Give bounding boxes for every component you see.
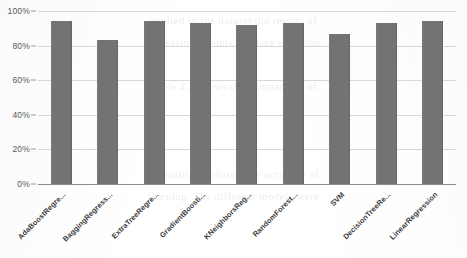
x-axis-category-label: RandomForest... <box>251 190 300 239</box>
y-axis-tick-label: 100% <box>7 6 30 16</box>
x-axis-category-label: ExtraTreeRegre... <box>110 190 161 241</box>
y-axis-tick-label: 0% <box>17 179 30 189</box>
bar[interactable] <box>422 21 443 184</box>
x-axis-category-label: SVM <box>328 190 346 208</box>
x-axis-category-label: KNeighborsReg... <box>202 190 253 241</box>
bar[interactable] <box>376 23 397 184</box>
bar-chart: 0%20%40%60%80%100% AdaBoostRegre...Baggi… <box>0 0 467 258</box>
y-axis-tick-mark <box>31 184 36 185</box>
bar[interactable] <box>97 40 118 184</box>
bar[interactable] <box>236 25 257 184</box>
y-axis-tick-mark <box>31 45 36 46</box>
x-axis-category-label: LinearRegression <box>387 190 439 242</box>
y-axis-tick-label: 20% <box>12 144 30 154</box>
x-axis-category-label: BaggingRegress... <box>61 190 114 243</box>
bar-slot <box>38 11 84 184</box>
y-axis-tick-mark <box>31 80 36 81</box>
bar-slot <box>363 11 409 184</box>
y-axis-tick-label: 60% <box>12 75 30 85</box>
x-axis-category-label: AdaBoostRegre... <box>16 190 67 241</box>
bar[interactable] <box>144 21 165 184</box>
y-axis-tick-mark <box>31 11 36 12</box>
bar-slot <box>84 11 130 184</box>
bar-slot <box>224 11 270 184</box>
bar-slot <box>177 11 223 184</box>
plot-area <box>38 11 456 184</box>
x-axis-category-label: GradientBoosti... <box>157 190 207 240</box>
x-axis-labels: AdaBoostRegre...BaggingRegress...ExtraTr… <box>38 186 456 258</box>
x-axis-category-label: DecisionTreeRe... <box>342 190 393 241</box>
axis-baseline <box>38 184 456 185</box>
y-axis-tick-mark <box>31 149 36 150</box>
bar[interactable] <box>51 21 72 184</box>
bar-slot <box>270 11 316 184</box>
y-axis-tick-label: 40% <box>12 110 30 120</box>
bar[interactable] <box>329 34 350 185</box>
y-axis: 0%20%40%60%80%100% <box>0 0 36 195</box>
bar-slot <box>410 11 456 184</box>
bar-series <box>38 11 456 184</box>
y-axis-tick-mark <box>31 114 36 115</box>
bar-slot <box>317 11 363 184</box>
bar[interactable] <box>190 23 211 184</box>
bar-slot <box>131 11 177 184</box>
bar[interactable] <box>283 23 304 184</box>
y-axis-tick-label: 80% <box>12 41 30 51</box>
